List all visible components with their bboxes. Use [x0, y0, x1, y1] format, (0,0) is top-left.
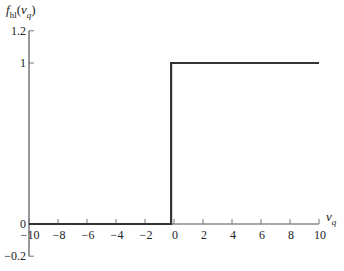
- x-tick-label: 10: [314, 228, 326, 242]
- x-tick-label: 0: [172, 228, 178, 242]
- y-tick-label: 1.2: [11, 24, 26, 38]
- x-axis-label: vq: [326, 209, 337, 227]
- x-tick-label: 4: [230, 228, 236, 242]
- x-tick-label: 2: [201, 228, 207, 242]
- step-function-line: [29, 63, 319, 224]
- plot-series: [29, 63, 319, 224]
- x-tick-label: −4: [111, 228, 124, 242]
- axes: −0.2011.2−10−8−6−4−20246810: [4, 24, 326, 263]
- y-tick-label: −0.2: [4, 249, 26, 263]
- y-axis-label: fhl(vq): [6, 2, 36, 20]
- x-tick-label: −2: [140, 228, 153, 242]
- x-tick-label: 6: [259, 228, 265, 242]
- x-tick-label: 8: [288, 228, 294, 242]
- x-tick-label: −6: [82, 228, 95, 242]
- step-function-chart: −0.2011.2−10−8−6−4−20246810 fhl(vq) vq: [0, 0, 344, 271]
- y-tick-label: 1: [20, 56, 26, 70]
- x-tick-label: −10: [21, 228, 40, 242]
- x-tick-label: −8: [53, 228, 66, 242]
